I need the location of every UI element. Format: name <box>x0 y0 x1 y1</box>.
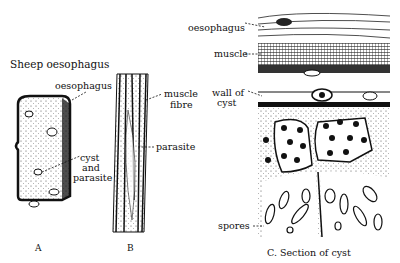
muscle-fibre-drawing <box>113 74 162 232</box>
label-c-muscle: muscle <box>214 49 248 59</box>
label-b-parasite: parasite <box>156 142 195 152</box>
oesophagus-tube-drawing <box>16 92 86 207</box>
caption-b: B <box>127 243 134 253</box>
label-a-oesophagus: oesophagus <box>55 81 112 91</box>
label-a-parasite: parasite <box>73 173 112 183</box>
diagram-canvas <box>0 0 400 263</box>
cyst-section-drawing <box>245 12 390 237</box>
label-b-fibre: fibre <box>170 100 193 110</box>
figure-title: Sheep oesophagus <box>10 59 109 69</box>
caption-a: A <box>35 243 42 253</box>
label-b-muscle: muscle <box>164 89 198 99</box>
label-c-spores: spores <box>218 221 250 231</box>
caption-c: C. Section of cyst <box>267 247 351 258</box>
label-c-cyst: cyst <box>217 98 236 108</box>
label-c-oesophagus: oesophagus <box>188 23 245 33</box>
